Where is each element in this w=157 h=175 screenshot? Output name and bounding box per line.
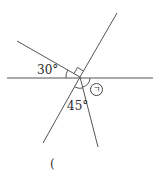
angle-label-30: 30° — [37, 64, 58, 76]
answer-parenthesis: ( — [50, 157, 55, 171]
diagram-canvas — [0, 0, 157, 175]
unknown-angle-label: ㄱ — [90, 83, 103, 96]
angle-arc-30 — [66, 70, 68, 78]
angle-arc-unknown — [83, 78, 90, 87]
angle-arc-45 — [75, 87, 83, 88]
upper-right-ray — [80, 13, 117, 77]
angle-label-45: 45° — [67, 100, 88, 112]
